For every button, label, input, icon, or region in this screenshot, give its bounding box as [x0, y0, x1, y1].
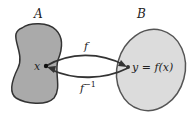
- set-b-label: B: [136, 7, 146, 21]
- point-y-label: y = f(x): [131, 61, 173, 74]
- arrow-f-inverse-sup: −1: [84, 80, 96, 89]
- arrow-f-label: f: [83, 40, 90, 53]
- arrow-f-inverse-label: f−1: [79, 80, 96, 95]
- point-x-dot: [44, 64, 48, 68]
- function-inverse-diagram: A B x y = f(x) f f−1: [0, 0, 190, 115]
- set-a-label: A: [33, 7, 43, 21]
- point-x-label: x: [34, 60, 41, 73]
- point-y-dot: [126, 65, 130, 69]
